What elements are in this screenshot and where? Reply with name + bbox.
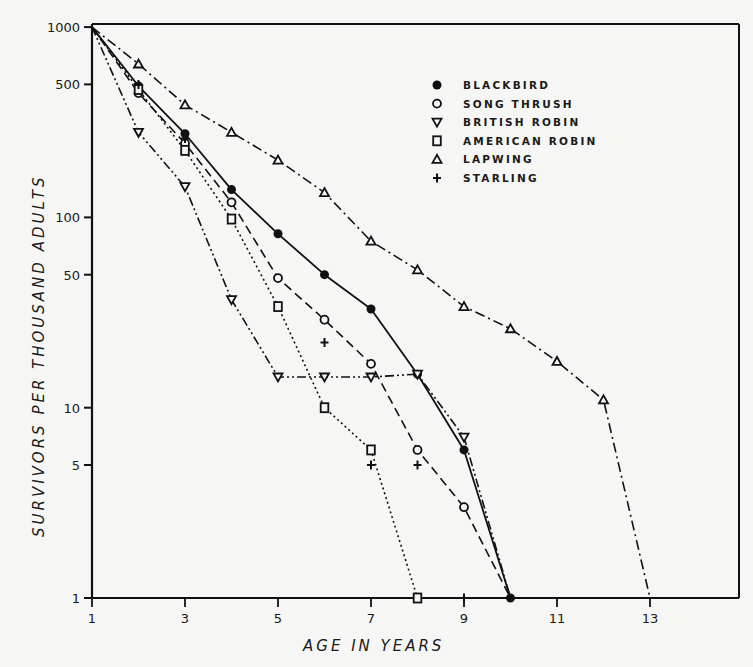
y-tick-label: 50: [63, 268, 80, 283]
triangle-up-icon: [599, 395, 608, 403]
triangle-up-icon: [227, 128, 236, 136]
open-circle-icon: [228, 198, 236, 206]
square-icon: [321, 403, 329, 412]
legend-item: SONG THRUSH: [433, 98, 574, 110]
filled-circle-icon: [227, 185, 236, 194]
filled-circle-icon: [274, 229, 283, 238]
plus-icon: [414, 460, 422, 469]
open-circle-icon: [460, 503, 468, 511]
triangle-up-icon: [274, 156, 283, 164]
plus-icon: [367, 460, 375, 469]
triangle-down-icon: [433, 119, 442, 127]
square-icon: [367, 445, 375, 454]
x-tick-label: 1: [88, 611, 96, 626]
triangle-up-icon: [320, 188, 329, 196]
square-icon: [274, 302, 282, 311]
open-circle-icon: [367, 360, 375, 368]
legend-item: BRITISH ROBIN: [433, 116, 581, 128]
y-tick-label: 1: [72, 591, 80, 606]
open-circle-icon: [414, 446, 422, 454]
legend-label: SONG THRUSH: [463, 98, 574, 110]
y-tick-label: 1000: [47, 20, 80, 35]
triangle-up-icon: [433, 155, 442, 163]
legend-label: LAPWING: [463, 153, 534, 165]
square-icon: [414, 594, 422, 603]
data-series: [92, 27, 650, 602]
open-circle-icon: [321, 316, 329, 324]
y-tick-label: 10: [63, 401, 80, 416]
triangle-down-icon: [274, 373, 283, 381]
legend-label: BRITISH ROBIN: [463, 116, 580, 128]
plus-icon: [460, 594, 468, 603]
y-axis-label: SURVIVORS PER THOUSAND ADULTS: [30, 175, 48, 537]
series-american-robin: [92, 27, 421, 602]
x-tick-label: 11: [549, 611, 566, 626]
series-song-thrush: [92, 27, 511, 598]
triangle-down-icon: [320, 373, 329, 381]
x-tick-label: 13: [642, 611, 659, 626]
x-tick-label: 9: [460, 611, 468, 626]
x-tick-label: 7: [367, 611, 375, 626]
filled-circle-icon: [367, 305, 376, 314]
triangle-up-icon: [506, 324, 515, 332]
triangle-down-icon: [367, 373, 376, 381]
y-tick-label: 5: [72, 458, 80, 473]
triangle-down-icon: [134, 129, 143, 137]
legend-label: AMERICAN ROBIN: [463, 135, 598, 147]
plot-frame: [84, 24, 739, 598]
plus-icon: [433, 174, 441, 183]
y-tick-label: 100: [55, 210, 80, 225]
legend-item: AMERICAN ROBIN: [433, 135, 597, 147]
triangle-up-icon: [181, 100, 190, 108]
triangle-up-icon: [413, 265, 422, 273]
legend-item: BLACKBIRD: [433, 79, 551, 91]
legend-label: BLACKBIRD: [463, 79, 550, 91]
plus-icon: [321, 338, 329, 347]
open-circle-icon: [274, 274, 282, 282]
y-axis-ticks: 1510501005001000: [47, 20, 92, 606]
square-icon: [228, 215, 236, 224]
filled-circle-icon: [320, 270, 329, 279]
filled-circle-icon: [506, 594, 515, 603]
square-icon: [181, 146, 189, 155]
series-starling: [135, 80, 469, 603]
survival-chart: 1510501005001000 135791113 AGE IN YEARS …: [0, 0, 753, 667]
x-tick-label: 3: [181, 611, 189, 626]
triangle-down-icon: [181, 183, 190, 191]
series-british-robin: [92, 27, 511, 598]
legend: BLACKBIRDSONG THRUSHBRITISH ROBINAMERICA…: [433, 79, 598, 184]
legend-label: STARLING: [463, 172, 539, 184]
x-tick-label: 5: [274, 611, 282, 626]
square-icon: [433, 136, 441, 145]
legend-item: STARLING: [433, 172, 539, 184]
triangle-down-icon: [227, 296, 236, 304]
filled-circle-icon: [433, 81, 442, 90]
x-axis-label: AGE IN YEARS: [302, 637, 444, 655]
series-blackbird: [92, 27, 515, 602]
x-axis-ticks: 135791113: [88, 598, 658, 626]
open-circle-icon: [433, 100, 441, 108]
triangle-down-icon: [413, 371, 422, 379]
y-tick-label: 500: [55, 77, 80, 92]
legend-item: LAPWING: [433, 153, 534, 165]
triangle-down-icon: [460, 434, 469, 442]
triangle-up-icon: [553, 357, 562, 365]
